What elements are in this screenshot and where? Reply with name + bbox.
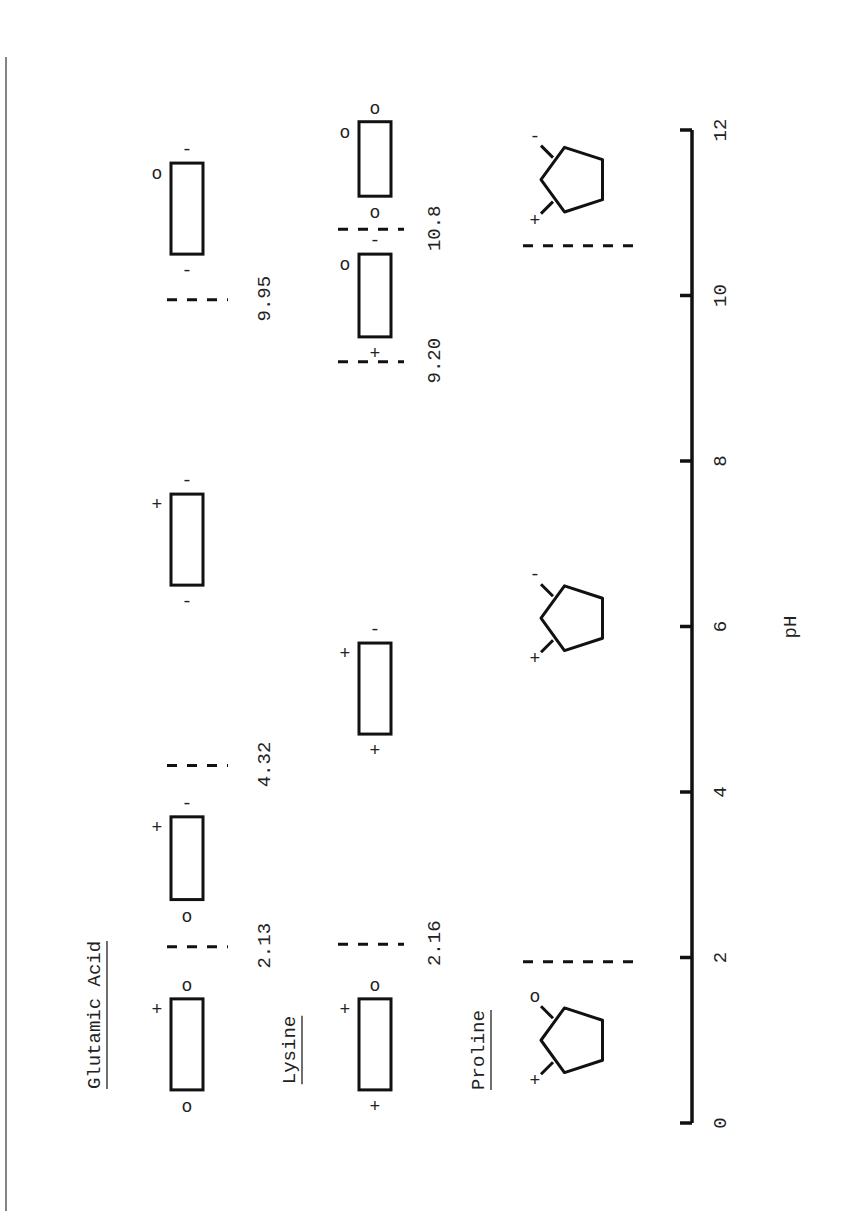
zwitterion-box	[171, 494, 203, 585]
ring-charge-right: o	[530, 987, 541, 1007]
substituent-bond	[541, 1062, 553, 1074]
amino-acid-name: Lysine	[279, 1016, 301, 1084]
proline-ring	[541, 586, 603, 651]
zwitterion-box	[359, 643, 391, 734]
axis-tick-label: 10	[710, 284, 732, 307]
proline-ring	[541, 1008, 603, 1073]
charge-top: -	[370, 620, 381, 640]
pk-value-label: 9.20	[424, 338, 446, 384]
titration-diagram: 024681012pHGlutamic Acid2.134.329.95oo+-…	[0, 0, 847, 1211]
charge-bottom: +	[370, 1097, 381, 1117]
axis-title: pH	[780, 616, 802, 639]
charge-top: o	[370, 976, 381, 996]
axis-tick-label: 12	[710, 119, 732, 142]
axis-tick-label: 8	[710, 455, 732, 466]
pk-value-label: 2.16	[424, 920, 446, 966]
zwitterion-box	[171, 163, 203, 254]
charge-bottom: o	[182, 1097, 193, 1117]
amino-acid-name: Proline	[468, 1010, 490, 1090]
ring-charge-right: -	[530, 127, 541, 147]
charge-side: +	[152, 1000, 163, 1020]
ring-charge-left: +	[530, 211, 541, 231]
charge-top: -	[370, 231, 381, 251]
pk-value-label: 4.32	[254, 742, 276, 788]
zwitterion-box	[359, 122, 391, 196]
charge-top: o	[370, 99, 381, 119]
pk-value-label: 10.8	[424, 205, 446, 251]
substituent-bond	[541, 146, 553, 158]
charge-top: -	[182, 140, 193, 160]
axis-tick-label: 0	[710, 1117, 732, 1128]
axis-tick-label: 6	[710, 621, 732, 632]
charge-top: -	[182, 794, 193, 814]
charge-bottom: +	[370, 741, 381, 761]
charge-top: o	[182, 976, 193, 996]
substituent-bond	[541, 584, 553, 596]
charge-side: +	[152, 495, 163, 515]
ring-charge-left: +	[530, 1071, 541, 1091]
zwitterion-box	[359, 999, 391, 1090]
zwitterion-box	[359, 254, 391, 337]
charge-bottom: o	[370, 203, 381, 223]
charge-side: +	[152, 818, 163, 838]
proline-ring	[541, 147, 603, 212]
substituent-bond	[541, 640, 553, 652]
ring-charge-left: +	[530, 649, 541, 669]
charge-side: +	[340, 1000, 351, 1020]
charge-side: o	[340, 255, 351, 275]
substituent-bond	[541, 1006, 553, 1018]
charge-bottom: -	[182, 261, 193, 281]
charge-side: o	[152, 164, 163, 184]
amino-acid-name: Glutamic Acid	[84, 941, 106, 1089]
charge-side: +	[340, 644, 351, 664]
axis-tick-label: 2	[710, 952, 732, 963]
pk-value-label: 9.95	[254, 276, 276, 322]
zwitterion-box	[171, 999, 203, 1090]
pk-value-label: 2.13	[254, 923, 276, 969]
charge-bottom: -	[182, 592, 193, 612]
charge-bottom: +	[370, 344, 381, 364]
charge-top: -	[182, 471, 193, 491]
charge-bottom: o	[182, 907, 193, 927]
zwitterion-box	[171, 817, 203, 900]
ring-charge-right: -	[530, 565, 541, 585]
axis-tick-label: 4	[710, 786, 732, 797]
charge-side: o	[340, 123, 351, 143]
substituent-bond	[541, 202, 553, 214]
